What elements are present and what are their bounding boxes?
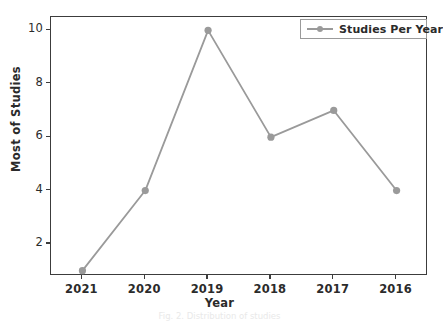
data-point-marker bbox=[393, 187, 400, 194]
x-axis-tick-label: 2017 bbox=[303, 282, 363, 296]
x-axis-tick-label: 2019 bbox=[177, 282, 237, 296]
x-axis-tick-mark bbox=[81, 275, 82, 279]
data-point-marker bbox=[204, 27, 211, 34]
data-point-marker bbox=[330, 107, 337, 114]
data-point-marker bbox=[267, 134, 274, 141]
x-axis-tick-mark bbox=[395, 275, 396, 279]
x-axis-tick-mark bbox=[144, 275, 145, 279]
x-axis-tick-label: 2018 bbox=[240, 282, 300, 296]
plot-area bbox=[51, 17, 426, 274]
x-axis-tick-mark bbox=[332, 275, 333, 279]
legend-line-marker-icon bbox=[307, 23, 333, 35]
line-series-svg bbox=[51, 17, 428, 276]
x-axis-tick-label: 2016 bbox=[366, 282, 426, 296]
figure-caption: Fig. 2. Distribution of studies bbox=[0, 311, 439, 321]
x-axis-title: Year bbox=[0, 296, 439, 310]
x-axis-tick-mark bbox=[269, 275, 270, 279]
x-axis-tick-label: 2020 bbox=[114, 282, 174, 296]
data-point-marker bbox=[79, 267, 86, 274]
y-axis-tick-label: 8 bbox=[18, 75, 43, 89]
chart-legend: Studies Per Year bbox=[300, 19, 427, 39]
y-axis-tick-label: 10 bbox=[18, 21, 43, 35]
y-axis-tick-label: 6 bbox=[18, 128, 43, 142]
data-point-marker bbox=[142, 187, 149, 194]
y-axis-tick-label: 2 bbox=[18, 235, 43, 249]
series-line bbox=[82, 30, 396, 270]
legend-entry-label: Studies Per Year bbox=[339, 23, 443, 36]
plot-frame bbox=[50, 16, 427, 275]
x-axis-tick-label: 2021 bbox=[51, 282, 111, 296]
y-axis-tick-label: 4 bbox=[18, 182, 43, 196]
x-axis-tick-mark bbox=[206, 275, 207, 279]
